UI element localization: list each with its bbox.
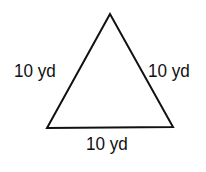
bottom-side-label: 10 yd bbox=[86, 134, 128, 154]
left-side-label: 10 yd bbox=[14, 61, 56, 81]
right-side-label: 10 yd bbox=[148, 61, 190, 81]
